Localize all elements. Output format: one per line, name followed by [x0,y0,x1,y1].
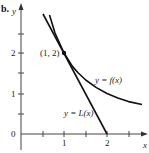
point-label: (1, 2) [40,48,60,58]
x-tick-label-2: 2 [105,138,110,148]
y-tick-label-2: 2 [11,48,16,58]
y-axis-label: y [11,6,16,16]
point-marker [62,51,66,55]
y-axis-arrow-icon [19,3,24,10]
x-axis-label: x [142,140,147,150]
x-axis: 1 2 x [21,131,148,150]
x-axis-arrow-icon [141,132,148,137]
origin-label: 0 [11,129,16,139]
L-label: y = L(x) [63,108,94,118]
y-axis: y 2 1 0 [11,3,24,150]
chart-figure: b. y 2 1 0 1 2 x (1, 2) y = f(x) y = L(x… [0,0,149,153]
panel-label: b. [1,3,10,14]
y-tick-label-1: 1 [11,89,16,99]
x-tick-label-1: 1 [62,138,67,148]
curve-f [50,15,143,105]
f-label: y = f(x) [94,75,122,85]
